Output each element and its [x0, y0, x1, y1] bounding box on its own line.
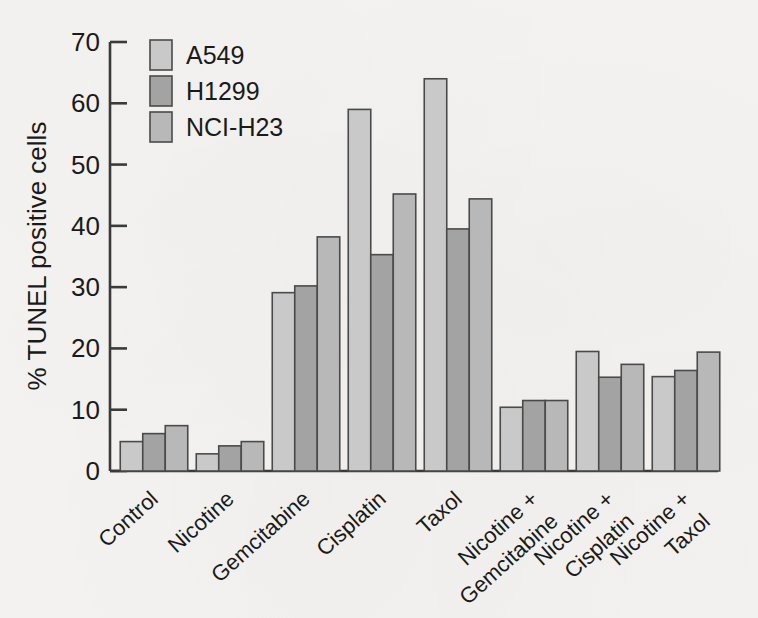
x-tick-label: Control — [93, 486, 162, 552]
legend-label: NCI-H23 — [186, 113, 283, 141]
legend-swatch — [150, 112, 172, 142]
bar — [241, 442, 264, 471]
bar — [143, 434, 166, 471]
y-tick-label: 70 — [71, 27, 100, 57]
x-axis: ControlNicotineGemcitabineCisplatinTaxol… — [93, 471, 718, 610]
legend-label: H1299 — [186, 77, 260, 105]
bar — [165, 426, 188, 471]
y-tick-label: 40 — [71, 211, 100, 241]
bar — [652, 377, 675, 471]
bar — [675, 370, 698, 471]
y-tick-label: 60 — [71, 88, 100, 118]
x-tick-label: Nicotine +Taxol — [605, 486, 715, 593]
bar — [599, 377, 622, 471]
bar-chart-figure: 010203040506070 % TUNEL positive cells C… — [0, 0, 758, 618]
x-axis-category-labels: ControlNicotineGemcitabineCisplatinTaxol… — [93, 486, 715, 610]
y-axis-title: % TUNEL positive cells — [22, 122, 52, 391]
y-tick-label: 0 — [86, 456, 100, 486]
bar — [295, 286, 318, 471]
x-tick-label: Nicotine — [163, 486, 239, 558]
bar — [272, 293, 295, 471]
bar — [219, 446, 242, 471]
legend-swatch — [150, 40, 172, 70]
bar — [576, 351, 599, 471]
bar — [120, 442, 143, 471]
legend-swatch — [150, 76, 172, 106]
y-axis-ticks: 010203040506070 — [71, 27, 127, 486]
bar — [393, 194, 416, 471]
y-axis: 010203040506070 % TUNEL positive cells — [22, 27, 127, 486]
y-tick-label: 30 — [71, 272, 100, 302]
bar — [469, 199, 492, 471]
y-tick-label: 20 — [71, 333, 100, 363]
bar — [545, 401, 568, 471]
bar — [196, 454, 219, 471]
y-tick-label: 50 — [71, 150, 100, 180]
x-tick-label-line: Control — [93, 486, 162, 552]
bar — [621, 364, 644, 471]
x-tick-label-line: Cisplatin — [311, 486, 390, 561]
legend-label: A549 — [186, 41, 244, 69]
chart-legend: A549H1299NCI-H23 — [150, 40, 283, 142]
bar — [447, 229, 470, 471]
bar — [697, 352, 720, 471]
bar — [348, 109, 371, 471]
x-tick-label: Taxol — [412, 486, 467, 539]
x-tick-label-line: Taxol — [412, 486, 467, 539]
x-tick-label-line: Nicotine — [163, 486, 239, 558]
bar — [523, 401, 546, 471]
chart-svg: 010203040506070 % TUNEL positive cells C… — [0, 0, 758, 618]
y-tick-label: 10 — [71, 395, 100, 425]
bar — [371, 255, 394, 471]
bar — [317, 237, 340, 471]
bar — [424, 79, 447, 471]
x-tick-label: Cisplatin — [311, 486, 390, 561]
bar — [500, 407, 523, 471]
